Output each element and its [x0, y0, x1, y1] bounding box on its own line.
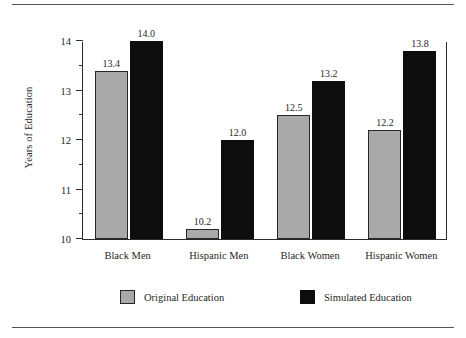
- y-axis-tick: 14: [76, 40, 83, 41]
- y-axis-tick: 13: [76, 90, 83, 91]
- legend-swatch-simulated: [300, 290, 315, 304]
- y-axis-tick-label: 13: [61, 85, 72, 96]
- y-axis-tick: 10: [76, 238, 83, 239]
- y-axis-tick: 12: [76, 139, 83, 140]
- y-axis-minor-tick: [79, 213, 84, 214]
- bar-simulated-education-black-men: 14.0: [130, 41, 163, 239]
- x-axis-category-label: Black Women: [280, 250, 339, 261]
- y-axis-tick-label: 14: [61, 36, 72, 47]
- y-axis-tick: 11: [76, 189, 83, 190]
- y-axis-tick-label: 10: [61, 234, 72, 245]
- bar-original-education-black-men: 13.4: [95, 71, 128, 239]
- bar-original-education-black-women: 12.5: [277, 115, 310, 239]
- bar-simulated-education-hispanic-women: 13.8: [403, 51, 436, 239]
- bar-value-label: 12.2: [376, 117, 394, 128]
- y-axis-minor-tick: [79, 65, 84, 66]
- bar-value-label: 13.2: [320, 68, 338, 79]
- legend-swatch-original: [120, 290, 135, 304]
- legend-item: Simulated Education: [300, 290, 412, 304]
- legend-label: Simulated Education: [324, 292, 412, 303]
- y-axis-minor-tick: [79, 164, 84, 165]
- y-axis-title: Years of Education: [23, 48, 34, 208]
- bar-original-education-hispanic-men: 10.2: [186, 229, 219, 239]
- bottom-rule: [12, 327, 454, 328]
- y-axis-minor-tick: [79, 114, 84, 115]
- bar-value-label: 13.8: [411, 38, 429, 49]
- bar-original-education-hispanic-women: 12.2: [368, 130, 401, 239]
- figure: Years of Education 101112131413.414.010.…: [0, 0, 466, 338]
- bar-value-label: 12.5: [285, 102, 303, 113]
- x-axis-category-label: Hispanic Men: [189, 250, 248, 261]
- bar-value-label: 13.4: [102, 58, 120, 69]
- chart-legend: Original EducationSimulated Education: [82, 290, 447, 312]
- bar-value-label: 14.0: [137, 28, 155, 39]
- y-axis-tick-label: 12: [61, 135, 72, 146]
- x-axis-category-label: Hispanic Women: [365, 250, 437, 261]
- legend-label: Original Education: [144, 292, 224, 303]
- x-axis-category-label: Black Men: [104, 250, 150, 261]
- top-rule: [12, 4, 454, 5]
- bar-simulated-education-black-women: 13.2: [312, 81, 345, 239]
- legend-item: Original Education: [120, 290, 224, 304]
- plot-area: 101112131413.414.010.212.012.513.212.213…: [82, 42, 447, 240]
- bar-simulated-education-hispanic-men: 12.0: [221, 140, 254, 239]
- bar-value-label: 10.2: [194, 216, 212, 227]
- y-axis-tick-label: 11: [61, 184, 71, 195]
- bar-value-label: 12.0: [229, 127, 247, 138]
